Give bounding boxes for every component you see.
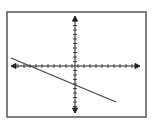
coordinate-graph xyxy=(0,0,153,125)
